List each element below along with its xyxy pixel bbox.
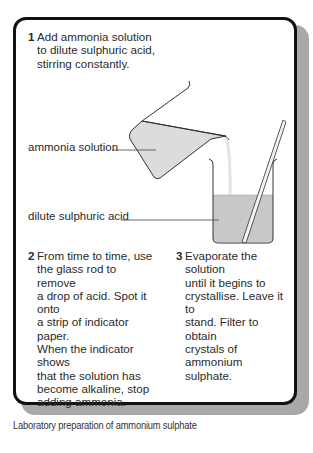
pouring-jug (129, 81, 229, 179)
apparatus-diagram (0, 0, 313, 453)
beaker-liquid (213, 195, 273, 242)
jug-handle-side (142, 81, 190, 121)
figure-caption: Laboratory preparation of ammonium sulph… (13, 419, 197, 431)
